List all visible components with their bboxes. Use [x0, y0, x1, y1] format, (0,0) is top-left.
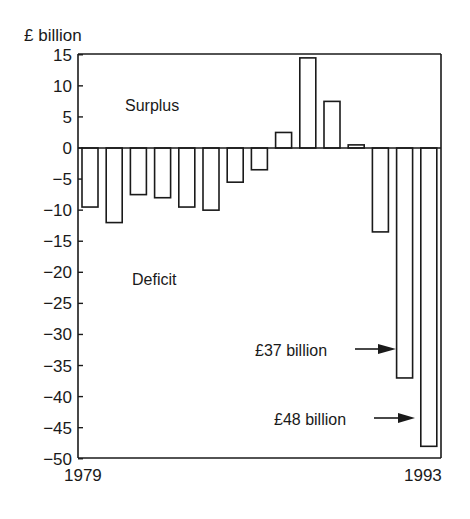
- bar-1985: [227, 148, 243, 182]
- bar-1988: [300, 58, 316, 148]
- y-tick-label: −45: [43, 419, 72, 438]
- bar-1980: [106, 148, 122, 223]
- y-tick-label: 5: [63, 108, 72, 127]
- bar-1984: [203, 148, 219, 210]
- y-tick-label: 15: [53, 46, 72, 65]
- bars: [82, 58, 437, 446]
- bar-1981: [130, 148, 146, 195]
- budget-balance-chart: 151050−5−10−15−20−25−30−35−40−45−50 £ bi…: [0, 0, 470, 519]
- surplus-label: Surplus: [125, 97, 179, 114]
- y-tick-label: −10: [43, 201, 72, 220]
- y-tick-label: 10: [53, 77, 72, 96]
- y-tick-label: −30: [43, 325, 72, 344]
- annotation-48-billion: £48 billion: [274, 411, 346, 428]
- bar-1986: [251, 148, 267, 170]
- bar-1987: [276, 132, 292, 148]
- bar-1979: [82, 148, 98, 207]
- y-axis-unit-label: £ billion: [24, 26, 82, 45]
- y-tick-label: −25: [43, 294, 72, 313]
- x-axis-start-label: 1979: [64, 466, 102, 485]
- bar-1989: [324, 101, 340, 148]
- annotation-37-billion: £37 billion: [255, 342, 327, 359]
- y-axis-ticks: 151050−5−10−15−20−25−30−35−40−45−50: [43, 46, 83, 469]
- arrow-right-icon: [355, 344, 396, 354]
- arrow-right-icon: [374, 413, 415, 423]
- bar-1992: [397, 148, 413, 378]
- bar-1983: [179, 148, 195, 207]
- y-tick-label: −20: [43, 263, 72, 282]
- y-tick-label: −40: [43, 388, 72, 407]
- y-tick-label: −35: [43, 357, 72, 376]
- y-tick-label: −15: [43, 232, 72, 251]
- bar-1982: [155, 148, 171, 198]
- deficit-label: Deficit: [132, 271, 177, 288]
- y-tick-label: 0: [63, 139, 72, 158]
- y-tick-label: −5: [53, 170, 72, 189]
- x-axis-end-label: 1993: [404, 466, 442, 485]
- bar-1991: [372, 148, 388, 232]
- bar-1993: [421, 148, 437, 446]
